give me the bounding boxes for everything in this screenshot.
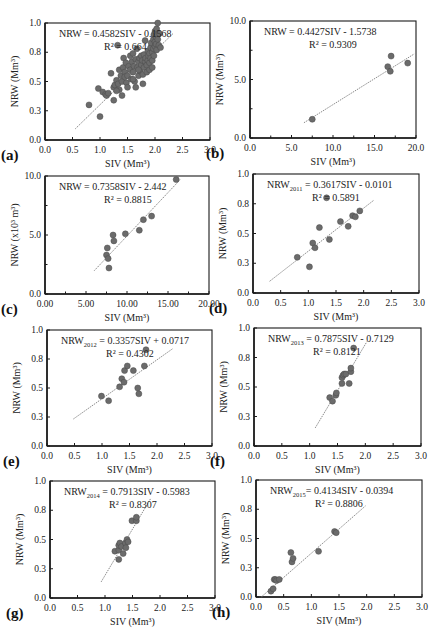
x-axis-label: SIV (Mm³) [105,158,150,170]
r-squared: R² = 0.4302 [106,348,154,359]
data-point [346,380,352,386]
data-point [326,236,332,242]
data-point [140,81,146,87]
x-tick-label: 2.5 [179,451,191,461]
regression-equation: NRW2012 = 0.3357SIV + 0.0717 [61,335,189,348]
y-tick-label: 0.5 [34,535,46,545]
data-point [405,60,411,66]
x-tick-label: 1.0 [302,298,314,308]
y-tick-label: 0.0 [240,592,252,602]
y-tick-label: 1.0 [31,325,43,335]
y-tick-label: 0.5 [29,77,41,87]
data-point [110,232,116,238]
y-tick-label: 0.0 [31,441,43,451]
data-point [136,67,142,73]
y-tick-label: 0.0 [237,288,249,298]
data-point [316,225,322,231]
y-tick-label: 0.0 [238,441,250,451]
data-point [120,551,126,557]
x-tick-label: 3.0 [416,602,428,612]
y-tick-label: 0.3 [240,563,252,573]
data-point [141,363,147,369]
data-point [124,363,130,369]
data-point [357,208,363,214]
y-axis-label: NRW (Mm³) [14,514,26,565]
data-point [125,84,131,90]
data-point [123,545,129,551]
data-point [136,227,142,233]
data-point [130,368,136,374]
y-tick-label: 5.0 [234,75,246,85]
y-tick-label: 10.0 [24,171,41,181]
r-squared: R² = 0.8307 [109,499,157,510]
y-axis-label: NRW (Mm³) [214,54,226,105]
x-tick-label: 0.5 [67,145,79,155]
x-tick-label: 2.0 [359,451,371,461]
r-squared: R² = 0.8815 [104,194,152,205]
data-point [306,264,312,270]
scatter-panels: 0.00.51.01.52.02.53.00.00.30.50.81.0SIV … [0,0,445,643]
data-point [329,398,335,404]
y-tick-label: 0.5 [237,229,249,239]
x-tick-label: 2.5 [182,603,194,613]
data-point [294,254,300,260]
y-axis-label: NRW (Mm³) [9,56,21,107]
data-point [97,114,103,120]
x-axis-label: SIV (Mm³) [314,311,359,323]
x-tick-label: 2.5 [388,602,400,612]
data-point [121,379,127,385]
data-point [111,238,117,244]
data-point [270,586,276,592]
y-tick-label: 0.8 [240,504,252,514]
x-tick-label: 2.0 [361,602,373,612]
x-tick-label: 2.0 [358,298,370,308]
data-point [309,116,315,122]
panel-g: 0.00.51.01.52.02.53.00.00.30.50.81.0SIV … [6,476,221,628]
data-point [387,68,393,74]
data-point [136,391,142,397]
y-tick-label: 0.0 [29,289,41,299]
x-axis-label: SIV (Mm³) [317,615,362,627]
x-tick-label: 0.5 [275,298,287,308]
panel-f: 0.00.51.01.52.02.53.00.00.30.50.81.0SIV … [210,323,427,476]
x-tick-label: 1.5 [124,451,136,461]
x-tick-label: 2.0 [149,145,161,155]
regression-equation: NRW2011 = 0.3617SIV - 0.0101 [267,179,392,192]
x-tick-label: 1.0 [94,145,106,155]
x-tick-label: 15.00 [157,299,179,309]
x-tick-label: 1.5 [333,602,345,612]
x-tick-label: 0.00 [37,299,54,309]
data-point [337,219,343,225]
x-tick-label: 10.0 [325,143,342,153]
data-point [114,88,120,94]
data-point [290,555,296,561]
data-point [312,245,318,251]
x-tick-label: 0.5 [278,602,290,612]
data-point [133,84,139,90]
panel-label: (c) [1,301,18,318]
x-tick-label: 3.0 [413,298,425,308]
figure: 0.00.51.01.52.02.53.00.00.30.50.81.0SIV … [0,0,445,643]
x-tick-label: 10.00 [116,299,138,309]
r-squared: R² = 0.9309 [309,39,357,50]
data-point [106,398,112,404]
y-axis-label: NRW (Mm³) [11,362,23,413]
panel-a: 0.00.51.01.52.02.53.00.00.30.50.81.0SIV … [1,18,216,170]
x-tick-label: 2.0 [154,603,166,613]
x-axis-label: SIV (Mm³) [315,464,360,476]
panel-label: (f) [210,453,225,470]
panel-label: (g) [6,605,24,622]
y-tick-label: 0.3 [29,106,41,116]
y-tick-label: 0.8 [29,47,41,57]
y-tick-label: 5.0 [29,230,41,240]
panel-h: 0.00.51.01.52.02.53.00.00.30.50.81.0SIV … [212,475,428,627]
x-tick-label: 1.5 [332,451,344,461]
regression-equation: NRW2014 = 0.7913SIV - 0.5983 [64,486,190,499]
data-point [288,550,294,556]
data-point [339,380,345,386]
r-squared: R² = 0.8806 [315,498,363,509]
x-tick-label: 1.0 [305,602,317,612]
data-point [117,384,123,390]
data-point [104,245,110,251]
y-tick-label: 1.0 [29,18,41,28]
